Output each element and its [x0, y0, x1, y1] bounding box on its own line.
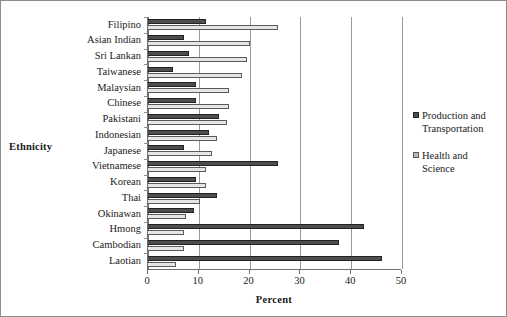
bar-health-science	[148, 167, 206, 172]
plot-area	[147, 17, 402, 269]
bar-group	[148, 64, 402, 80]
bar-health-science	[148, 246, 184, 251]
bar-group	[148, 33, 402, 49]
bar-group	[148, 206, 402, 222]
bar-group	[148, 49, 402, 65]
bar-production-transportation	[148, 177, 196, 182]
bar-health-science	[148, 104, 229, 109]
bar-production-transportation	[148, 193, 217, 198]
x-tick-10	[198, 270, 199, 274]
bar-health-science	[148, 136, 217, 141]
gridline-50	[402, 17, 403, 269]
bar-health-science	[148, 262, 176, 267]
bar-health-science	[148, 151, 212, 156]
x-tick-label: 30	[294, 275, 305, 286]
x-tick-20	[249, 270, 250, 274]
bar-group	[148, 80, 402, 96]
bar-health-science	[148, 88, 229, 93]
bar-group	[148, 238, 402, 254]
bar-health-science	[148, 120, 227, 125]
bar-group	[148, 159, 402, 175]
legend-label: Production and Transportation	[422, 109, 486, 135]
category-label: Thai	[61, 190, 145, 206]
bar-group	[148, 112, 402, 128]
category-label: Taiwanese	[61, 64, 145, 80]
legend-label: Health and Science	[422, 149, 468, 175]
bar-production-transportation	[148, 19, 206, 24]
bar-production-transportation	[148, 130, 209, 135]
category-label: Korean	[61, 175, 145, 191]
category-label: Vietnamese	[61, 159, 145, 175]
legend-swatch-icon	[413, 152, 419, 158]
legend-entry[interactable]: Health and Science	[413, 149, 505, 175]
bar-production-transportation	[148, 224, 364, 229]
bar-group	[148, 17, 402, 33]
x-tick-label: 40	[345, 275, 356, 286]
bar-production-transportation	[148, 145, 184, 150]
bar-production-transportation	[148, 240, 339, 245]
x-tick-label: 50	[396, 275, 407, 286]
x-tick-label: 20	[243, 275, 254, 286]
x-tick-40	[350, 270, 351, 274]
bar-production-transportation	[148, 114, 219, 119]
category-label: Laotian	[61, 253, 145, 269]
category-label: Chinese	[61, 96, 145, 112]
bar-production-transportation	[148, 98, 196, 103]
category-label: Cambodian	[61, 238, 145, 254]
chart-legend: Production and TransportationHealth and …	[413, 109, 505, 190]
bar-production-transportation	[148, 82, 196, 87]
bar-production-transportation	[148, 256, 382, 261]
legend-entry[interactable]: Production and Transportation	[413, 109, 505, 135]
x-tick-label: 10	[193, 275, 204, 286]
bar-group	[148, 253, 402, 269]
category-label: Asian Indian	[61, 33, 145, 49]
bar-health-science	[148, 199, 200, 204]
category-label: Hmong	[61, 222, 145, 238]
category-label: Pakistani	[61, 112, 145, 128]
category-label: Malaysian	[61, 80, 145, 96]
category-label: Filipino	[61, 17, 145, 33]
bar-group	[148, 96, 402, 112]
category-label: Okinawan	[61, 206, 145, 222]
legend-swatch-icon	[413, 112, 419, 118]
category-label: Indonesian	[61, 127, 145, 143]
x-tick-50	[401, 270, 402, 274]
bar-group	[148, 143, 402, 159]
bar-group	[148, 222, 402, 238]
bar-health-science	[148, 183, 206, 188]
bar-group	[148, 175, 402, 191]
x-axis-title: Percent	[147, 294, 401, 305]
bar-chart-figure: Ethnicity FilipinoAsian IndianSri Lankan…	[0, 0, 507, 317]
bar-health-science	[148, 214, 186, 219]
category-label-column: FilipinoAsian IndianSri LankanTaiwaneseM…	[61, 17, 145, 269]
bar-production-transportation	[148, 51, 189, 56]
bar-health-science	[148, 73, 242, 78]
x-axis-tick-labels: 01020304050	[147, 275, 401, 289]
bar-health-science	[148, 230, 184, 235]
bar-production-transportation	[148, 161, 278, 166]
category-label: Japanese	[61, 143, 145, 159]
category-label: Sri Lankan	[61, 49, 145, 65]
bar-health-science	[148, 57, 247, 62]
bar-health-science	[148, 25, 278, 30]
bar-group	[148, 190, 402, 206]
bar-production-transportation	[148, 67, 173, 72]
bar-health-science	[148, 41, 250, 46]
bar-group	[148, 127, 402, 143]
bar-production-transportation	[148, 35, 184, 40]
x-tick-0	[147, 270, 148, 274]
bar-production-transportation	[148, 208, 194, 213]
x-tick-30	[299, 270, 300, 274]
x-tick-label: 0	[144, 275, 149, 286]
